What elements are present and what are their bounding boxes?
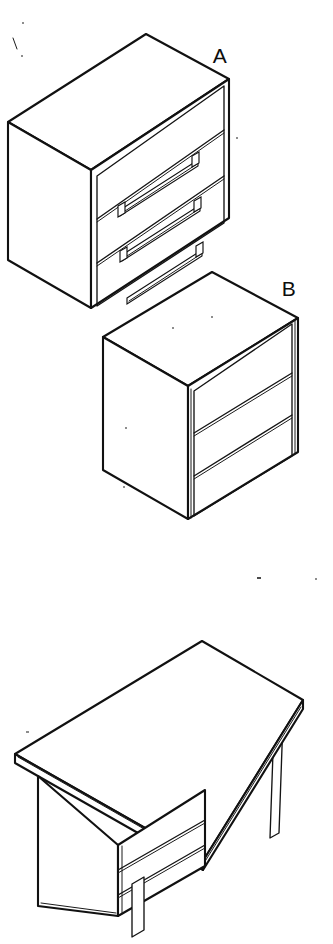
desk-leg-pedestal	[132, 877, 144, 937]
artifact-dot-10	[211, 316, 213, 318]
desk-c	[15, 641, 303, 937]
label-b: B	[282, 277, 297, 300]
furniture-line-drawing: A B	[0, 0, 333, 944]
figure-canvas: A B	[0, 0, 333, 944]
chest-b: B	[103, 272, 298, 519]
artifact-dot-4	[257, 577, 261, 579]
chest-a: A	[8, 34, 229, 308]
artifact-dot-5	[315, 578, 317, 580]
artifact-dot-8	[123, 486, 125, 488]
artifact-dot-3	[236, 137, 238, 139]
artifact-dot-6	[172, 327, 174, 329]
artifact-dot-2	[21, 55, 23, 57]
artifact-dot-7	[125, 427, 127, 429]
artifact-stroke	[13, 38, 17, 49]
artifact-dot-1	[22, 22, 24, 24]
artifact-dot-9	[26, 731, 29, 733]
label-a: A	[213, 44, 228, 67]
